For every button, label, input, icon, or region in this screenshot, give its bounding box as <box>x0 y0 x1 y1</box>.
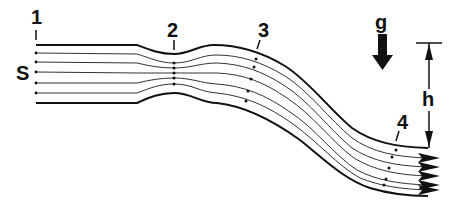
section-3-tick <box>257 40 260 49</box>
streamline-4 <box>36 78 428 185</box>
up-arrowhead-icon <box>425 44 433 60</box>
streamline-2 <box>36 62 428 167</box>
section-1-dots <box>35 52 38 95</box>
flow-arrowheads <box>418 153 440 195</box>
section-4-label: 4 <box>397 111 409 133</box>
down-arrow-icon <box>372 34 393 70</box>
section-2-label: 2 <box>167 19 178 41</box>
section-1-label: 1 <box>31 6 42 28</box>
bottom-wall <box>36 93 428 196</box>
height-label: h <box>422 88 434 110</box>
top-wall <box>36 45 428 148</box>
streamlines <box>36 53 428 190</box>
section-3-label: 3 <box>258 19 269 41</box>
down-arrowhead-icon <box>425 131 433 147</box>
streamline-diagram: 1 2 3 4 S g h <box>0 0 460 205</box>
streamline-3 <box>36 72 428 176</box>
source-label: S <box>16 62 29 84</box>
section-2-dots <box>173 62 176 86</box>
section-3-dots <box>245 58 258 103</box>
gravity-label: g <box>375 11 387 33</box>
